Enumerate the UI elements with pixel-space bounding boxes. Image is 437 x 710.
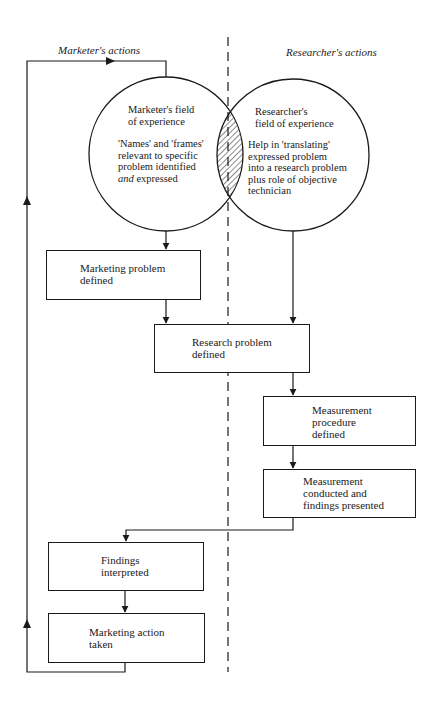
box-findings-interpreted: Findings interpreted	[48, 542, 204, 591]
box-measurement-conducted-text: Measurement conducted and findings prese…	[303, 475, 384, 511]
researcher-lane-label: Researcher's actions	[286, 46, 377, 58]
box-measurement-procedure-text: Measurement procedure defined	[312, 404, 372, 440]
box-findings-interpreted-text: Findings interpreted	[101, 554, 149, 578]
box-research-problem-text: Research problem defined	[192, 336, 272, 360]
marketer-lane-label: Marketer's actions	[58, 44, 140, 56]
marketer-circle-title: Marketer's field of experience	[128, 104, 194, 127]
box-research-problem: Research problem defined	[154, 324, 310, 373]
researcher-circle-body: Help in 'translating' expressed problem …	[248, 139, 347, 197]
marketer-body-text: 'Names' and 'frames' relevant to specifi…	[118, 138, 204, 172]
box-marketing-problem: Marketing problem defined	[46, 250, 201, 300]
box-marketing-problem-text: Marketing problem defined	[80, 262, 165, 286]
researcher-circle-title: Researcher's field of experience	[255, 106, 334, 129]
box-measurement-conducted: Measurement conducted and findings prese…	[263, 469, 416, 518]
box-marketing-action: Marketing action taken	[48, 613, 205, 663]
marketer-circle-body: 'Names' and 'frames' relevant to specifi…	[118, 138, 204, 184]
marketer-body-emphasis: and	[118, 173, 134, 184]
box-marketing-action-text: Marketing action taken	[89, 626, 164, 650]
box-measurement-procedure: Measurement procedure defined	[263, 396, 416, 446]
marketer-body-text-end: expressed	[134, 173, 178, 184]
